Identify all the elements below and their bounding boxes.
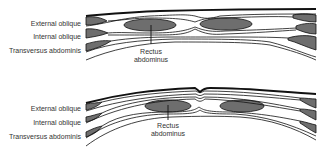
label-internal-oblique: Internal oblique: [0, 33, 81, 41]
aponeurosis-lines: [86, 14, 316, 60]
bottom-cross-section: External oblique Internal oblique Transv…: [0, 76, 321, 152]
label-external-oblique: External oblique: [0, 20, 81, 28]
label-rectus-line1: Rectus: [143, 122, 193, 130]
right-external-oblique-muscle: [293, 14, 316, 22]
label-transversus-abdominis: Transversus abdominis: [0, 47, 81, 55]
right-internal-oblique-muscle: [296, 23, 316, 34]
label-external-oblique: External oblique: [0, 105, 81, 113]
right-rectus-abdominus-muscle: [200, 18, 252, 30]
label-rectus-line2: abdominus: [143, 130, 193, 138]
label-rectus-abdominus: Rectus abdominus: [126, 48, 176, 64]
right-transversus-muscle: [288, 36, 316, 50]
right-internal-oblique-muscle: [300, 109, 316, 120]
right-transversus-muscle: [300, 121, 316, 133]
label-transversus-abdominis: Transversus abdominis: [0, 133, 81, 141]
left-internal-oblique-muscle: [86, 113, 102, 122]
label-rectus-line1: Rectus: [126, 48, 176, 56]
left-internal-oblique-muscle: [86, 29, 108, 38]
left-transversus-muscle: [86, 126, 102, 137]
top-cross-section: External oblique Internal oblique Transv…: [0, 0, 321, 76]
label-rectus-line2: abdominus: [126, 56, 176, 64]
left-rectus-abdominus-muscle: [124, 19, 176, 31]
right-external-oblique-muscle: [300, 98, 316, 108]
label-rectus-abdominus: Rectus abdominus: [143, 122, 193, 138]
left-external-oblique-muscle: [86, 17, 107, 25]
aponeurosis-lines: [86, 91, 316, 146]
label-internal-oblique: Internal oblique: [0, 119, 81, 127]
outer-fascia-line: [86, 9, 316, 16]
